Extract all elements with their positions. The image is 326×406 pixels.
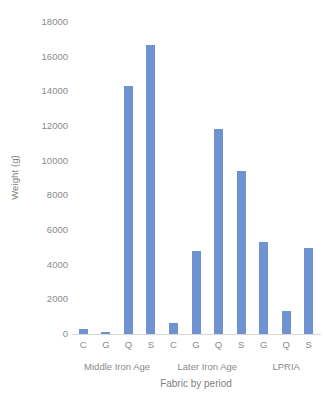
bar-slot [252, 22, 275, 334]
y-axis-tick-label: 0 [26, 329, 68, 339]
x-axis-tick-label: C [72, 338, 95, 352]
bar-slot [162, 22, 185, 334]
x-axis-group-labels: Middle Iron AgeLater Iron AgeLPRIA [72, 360, 320, 374]
y-axis-tick-labels: 1800016000140001200010000800060004000200… [26, 0, 68, 406]
bar-slot [117, 22, 140, 334]
y-axis-tick-label: 18000 [26, 17, 68, 27]
bar-slot [95, 22, 118, 334]
x-axis-tick-label: S [230, 338, 253, 352]
x-axis-tick-label: Q [207, 338, 230, 352]
y-axis-title: Weight (g) [9, 130, 20, 226]
bar-slot [297, 22, 320, 334]
y-axis-tick-label: 14000 [26, 87, 68, 97]
x-axis-group-label: Middle Iron Age [72, 360, 162, 374]
bar-slot [275, 22, 298, 334]
x-axis-tick-label: G [95, 338, 118, 352]
y-axis-tick-label: 12000 [26, 121, 68, 131]
y-axis-tick-label: 4000 [26, 260, 68, 270]
y-axis-tick-label: 16000 [26, 52, 68, 62]
bar [214, 129, 223, 334]
bar [304, 248, 313, 334]
bar-slot [207, 22, 230, 334]
y-axis-tick-label: 10000 [26, 156, 68, 166]
plot-area [72, 22, 320, 334]
bar [259, 242, 268, 334]
bar-slot [72, 22, 95, 334]
x-axis-group-label: Later Iron Age [162, 360, 252, 374]
x-axis-tick-label: G [252, 338, 275, 352]
x-axis-tick-label: C [162, 338, 185, 352]
x-axis-tick-label: Q [275, 338, 298, 352]
bar [146, 45, 155, 334]
bar [237, 171, 246, 334]
y-axis-tick-label: 2000 [26, 295, 68, 305]
bar-slot [140, 22, 163, 334]
bar [124, 86, 133, 334]
bars-layer [72, 22, 320, 334]
bar-slot [230, 22, 253, 334]
x-axis-group-label: LPRIA [252, 360, 320, 374]
bar-chart-figure: Weight (g) 18000160001400012000100008000… [0, 0, 326, 406]
bar [169, 323, 178, 334]
y-axis-tick-label: 8000 [26, 191, 68, 201]
x-axis-tick-label: S [297, 338, 320, 352]
x-axis-tick-label: G [185, 338, 208, 352]
x-axis-title: Fabric by period [72, 378, 320, 389]
bar [282, 311, 291, 334]
x-axis-tick-label: Q [117, 338, 140, 352]
bar [192, 251, 201, 334]
x-axis-tick-label: S [140, 338, 163, 352]
bar-slot [185, 22, 208, 334]
y-axis-tick-label: 6000 [26, 225, 68, 235]
x-axis-tick-labels: CGQSCGQSGQS [72, 338, 320, 352]
x-axis-line [72, 334, 321, 335]
